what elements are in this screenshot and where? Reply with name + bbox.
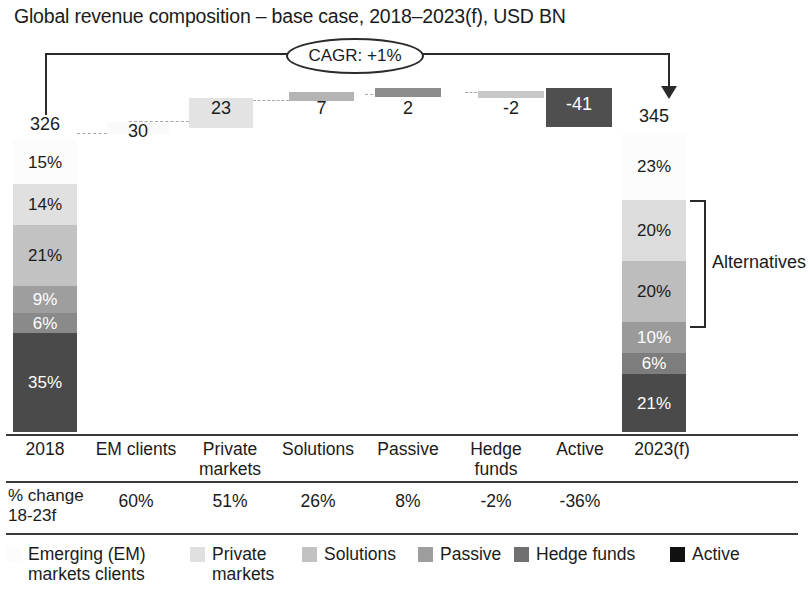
stacked-column-2023f[interactable]: 23% 20% 20% 10% 6% 21% [622,133,686,432]
pct-change-private-markets: 51% [186,492,274,512]
legend-label-active: Active [692,544,740,564]
cagr-arrow-icon [661,86,677,99]
legend-swatch-private-markets-icon [190,547,205,562]
segment-2023f-solutions[interactable]: 20% [622,261,686,322]
pct-change-row-header: % change 18-23f [8,486,100,525]
legend-swatch-emerging-markets-icon [6,547,21,562]
axis-label-private-markets: Private markets [186,440,274,479]
delta-bar-hedge-funds[interactable] [478,91,544,98]
value-label-passive: 2 [375,98,441,119]
value-label-active: -41 [546,94,612,115]
segment-2023f-emerging-markets[interactable]: 23% [622,133,686,200]
segment-2018-emerging-markets[interactable]: 15% [13,140,77,184]
legend-item-active[interactable]: Active [670,544,740,564]
legend-label-passive: Passive [440,544,501,564]
legend-item-passive[interactable]: Passive [418,544,501,564]
legend-item-private-markets[interactable]: Private markets [190,544,274,584]
connector-2018-em [77,133,107,134]
legend-item-solutions[interactable]: Solutions [302,544,396,564]
pct-change-em-clients: 60% [88,492,184,512]
alternatives-bracket [690,200,706,328]
chart-legend: Emerging (EM) markets clients Private ma… [6,544,806,590]
pct-change-solutions: 26% [272,492,364,512]
legend-label-hedge-funds: Hedge funds [536,544,635,564]
axis-label-solutions: Solutions [272,440,364,460]
cagr-bracket-right-stem [668,53,670,88]
value-label-hedge-funds: -2 [478,98,544,119]
axis-rule-bottom [6,533,798,535]
axis-label-2018: 2018 [6,440,84,460]
value-label-2023f: 345 [622,106,686,127]
segment-2018-solutions[interactable]: 21% [13,225,77,286]
segment-2023f-passive[interactable]: 10% [622,322,686,353]
delta-bar-passive[interactable] [375,88,441,97]
segment-2018-active[interactable]: 35% [13,333,77,432]
alternatives-label: Alternatives [712,252,806,273]
legend-swatch-solutions-icon [302,547,317,562]
axis-label-active: Active [540,440,620,460]
cagr-bracket-left-stem [45,53,47,115]
axis-rule-top [6,434,798,436]
legend-label-emerging-markets: Emerging (EM) markets clients [28,544,146,584]
value-label-em-clients: 30 [107,121,169,142]
segment-2018-hedge-funds[interactable]: 6% [13,313,77,333]
legend-label-solutions: Solutions [324,544,396,564]
segment-2023f-active[interactable]: 21% [622,374,686,432]
segment-2018-passive[interactable]: 9% [13,286,77,313]
value-label-solutions: 7 [289,98,354,119]
segment-2023f-private-markets[interactable]: 20% [622,200,686,261]
value-label-private-markets: 23 [189,98,253,119]
axis-label-2023f: 2023(f) [620,440,704,460]
pct-change-hedge-funds: -2% [452,492,540,512]
axis-label-passive: Passive [366,440,450,460]
cagr-callout: CAGR: +1% [286,38,424,74]
segment-2018-private-markets[interactable]: 14% [13,184,77,225]
legend-swatch-active-icon [670,547,685,562]
axis-label-em-clients: EM clients [88,440,184,460]
stacked-column-2018[interactable]: 15% 14% 21% 9% 6% 35% [13,140,77,432]
axis-rule-mid [6,481,798,483]
legend-swatch-hedge-funds-icon [514,547,529,562]
pct-change-active: -36% [540,492,620,512]
legend-item-emerging-markets[interactable]: Emerging (EM) markets clients [6,544,146,584]
segment-2023f-hedge-funds[interactable]: 6% [622,353,686,374]
legend-item-hedge-funds[interactable]: Hedge funds [514,544,635,564]
pct-change-passive: 8% [366,492,450,512]
chart-root: Global revenue composition – base case, … [0,0,810,590]
axis-label-hedge-funds: Hedge funds [452,440,540,479]
plot-area: CAGR: +1% 326 30 23 7 2 -2 -41 345 15% 1… [0,0,810,436]
value-label-2018: 326 [13,114,77,135]
connector-pm-sol [253,100,289,101]
legend-swatch-passive-icon [418,547,433,562]
legend-label-private-markets: Private markets [212,544,274,584]
